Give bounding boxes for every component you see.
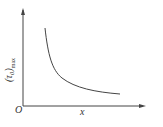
y-axis-label: (τ₀)max (3, 58, 16, 82)
x-axis-label: x (80, 106, 84, 117)
data-curve (45, 28, 120, 94)
y-axis-arrow-icon (21, 8, 25, 15)
origin-label: O (15, 104, 22, 115)
x-axis-arrow-icon (139, 104, 146, 108)
